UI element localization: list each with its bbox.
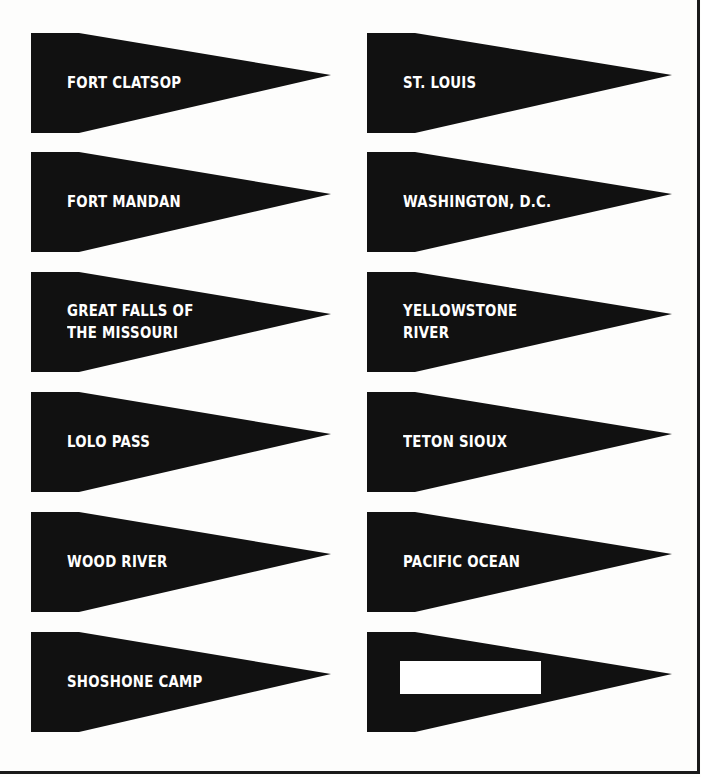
pennant-label-line-2: RIVER [403, 322, 449, 344]
pennant-label: ST. LOUIS [403, 33, 476, 133]
pennant-fort-clatsop: FORT CLATSOP [31, 33, 337, 133]
pennant-fort-mandan: FORT MANDAN [31, 152, 337, 252]
pennant-label: TETON SIOUX [403, 392, 507, 492]
pennant-label: GREAT FALLS OF THE MISSOURI [67, 272, 194, 372]
pennant-yellowstone-river: YELLOWSTONE RIVER [367, 272, 673, 372]
pennant-shoshone-camp: SHOSHONE CAMP [31, 632, 337, 732]
pennant-label-line-1: GREAT FALLS OF [67, 300, 194, 322]
pennant-teton-sioux: TETON SIOUX [367, 392, 673, 492]
pennant-lolo-pass: LOLO PASS [31, 392, 337, 492]
page-border-right [697, 0, 700, 774]
pennant-label: SHOSHONE CAMP [67, 632, 203, 732]
pennant-label: WASHINGTON, D.C. [403, 152, 551, 252]
pennant-washington-dc: WASHINGTON, D.C. [367, 152, 673, 252]
pennant-label-line-2: THE MISSOURI [67, 322, 178, 344]
pennant-label: FORT MANDAN [67, 152, 181, 252]
pennant-label: LOLO PASS [67, 392, 150, 492]
page-border-bottom [0, 771, 700, 774]
blank-label-field[interactable] [400, 661, 541, 694]
pennant-wood-river: WOOD RIVER [31, 512, 337, 612]
pennant-blank [367, 632, 673, 732]
pennant-label: PACIFIC OCEAN [403, 512, 520, 612]
pennant-label: YELLOWSTONE RIVER [403, 272, 517, 372]
pennant-label: WOOD RIVER [67, 512, 168, 612]
pennant-label-line-1: YELLOWSTONE [403, 300, 517, 322]
pennant-great-falls: GREAT FALLS OF THE MISSOURI [31, 272, 337, 372]
pennant-label: FORT CLATSOP [67, 33, 181, 133]
pennant-st-louis: ST. LOUIS [367, 33, 673, 133]
pennant-pacific-ocean: PACIFIC OCEAN [367, 512, 673, 612]
